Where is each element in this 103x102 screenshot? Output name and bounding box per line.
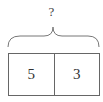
part-value: 5 <box>28 66 36 83</box>
bar-part-left: 5 <box>8 53 55 96</box>
bar-model: 5 3 <box>8 53 100 96</box>
bar-part-right: 3 <box>55 53 101 96</box>
part-value: 3 <box>73 66 81 83</box>
